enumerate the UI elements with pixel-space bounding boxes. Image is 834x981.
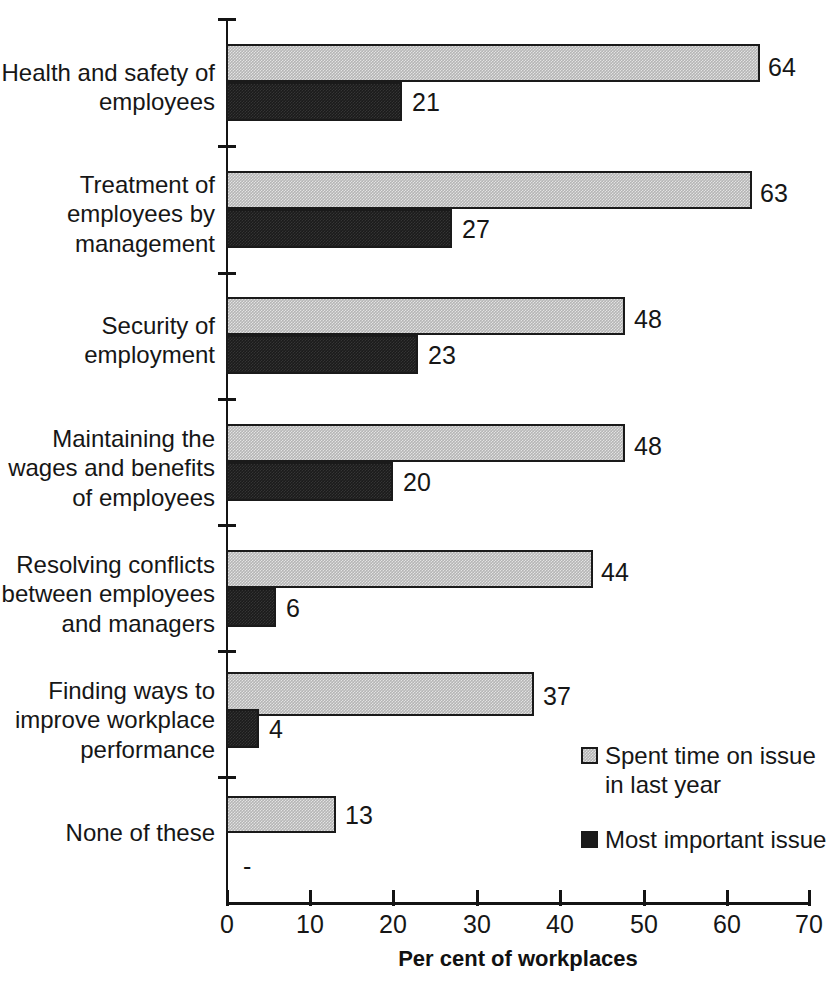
bar-spent-time-6 [226, 796, 336, 833]
x-axis-title: Per cent of workplaces [226, 946, 810, 972]
x-axis-tick-30 [476, 890, 479, 906]
bar-value-most-important-2: 23 [428, 343, 456, 368]
plot-area: 0 10 20 30 40 50 60 70 Per cent of workp… [0, 0, 834, 981]
x-axis-tick-label-50: 50 [630, 910, 658, 939]
x-axis-tick-label-30: 30 [463, 910, 491, 939]
x-axis-tick-label-60: 60 [713, 910, 741, 939]
legend-item-spent-time[interactable]: Spent time on issue in last year [581, 742, 834, 800]
bar-spent-time-1 [226, 171, 752, 209]
x-axis-tick-60 [726, 890, 729, 906]
y-axis-tick [218, 650, 236, 653]
bar-most-important-1 [226, 209, 452, 248]
bar-most-important-0 [226, 82, 402, 121]
category-label-6: None of these [66, 818, 215, 847]
legend-item-most-important[interactable]: Most important issue [581, 826, 834, 855]
y-axis-tick [218, 145, 236, 148]
x-axis-tick-50 [643, 890, 646, 906]
bar-value-spent-time-2: 48 [634, 307, 662, 332]
bar-value-spent-time-4: 44 [601, 560, 629, 585]
bar-value-most-important-4: 6 [286, 596, 300, 621]
x-axis-tick-40 [559, 890, 562, 906]
legend-label-most-important: Most important issue [605, 826, 826, 855]
category-label-5: Finding ways to improve workplace perfor… [15, 676, 215, 764]
bar-spent-time-0 [226, 44, 760, 82]
bar-value-most-important-3: 20 [403, 470, 431, 495]
bar-value-most-important-0: 21 [412, 90, 440, 115]
bar-spent-time-3 [226, 424, 625, 462]
y-axis-tick [218, 776, 236, 779]
black-square-icon [581, 831, 598, 848]
category-label-4: Resolving conflicts between employees an… [2, 550, 215, 638]
bar-most-important-5 [226, 709, 259, 748]
bar-value-spent-time-1: 63 [760, 181, 788, 206]
y-axis-tick [218, 524, 236, 527]
y-axis-tick [218, 398, 236, 401]
x-axis-line [226, 902, 810, 905]
bar-most-important-4 [226, 588, 276, 627]
bar-chart: 0 10 20 30 40 50 60 70 Per cent of workp… [0, 0, 834, 981]
x-axis-tick-label-40: 40 [546, 910, 574, 939]
x-axis-tick-label-70: 70 [795, 910, 823, 939]
gray-square-icon [581, 747, 598, 764]
x-axis-tick-label-20: 20 [379, 910, 407, 939]
y-axis-tick [218, 272, 236, 275]
bar-value-spent-time-5: 37 [543, 684, 571, 709]
bar-value-most-important-6: - [243, 854, 251, 879]
category-label-0: Health and safety of employees [2, 58, 215, 117]
category-label-1: Treatment of employees by management [67, 170, 215, 258]
x-axis-tick-label-10: 10 [296, 910, 324, 939]
bar-value-most-important-1: 27 [462, 217, 490, 242]
bar-value-spent-time-6: 13 [345, 803, 373, 828]
bar-spent-time-2 [226, 297, 625, 335]
x-axis-tick-0 [226, 890, 229, 906]
legend: Spent time on issue in last year Most im… [581, 742, 834, 880]
x-axis-tick-10 [309, 890, 312, 906]
x-axis-tick-20 [392, 890, 395, 906]
x-axis-tick-70 [808, 890, 811, 906]
y-axis-tick [218, 18, 236, 21]
bar-value-spent-time-3: 48 [634, 434, 662, 459]
bar-most-important-2 [226, 335, 418, 374]
bar-most-important-3 [226, 462, 393, 501]
bar-value-most-important-5: 4 [269, 717, 283, 742]
x-axis-tick-label-0: 0 [220, 910, 234, 939]
category-label-3: Maintaining the wages and benefits of em… [8, 424, 215, 512]
bar-spent-time-4 [226, 550, 593, 588]
category-label-2: Security of employment [84, 311, 215, 370]
legend-label-spent-time: Spent time on issue in last year [605, 742, 834, 800]
bar-value-spent-time-0: 64 [768, 55, 796, 80]
bar-spent-time-5 [226, 672, 534, 716]
